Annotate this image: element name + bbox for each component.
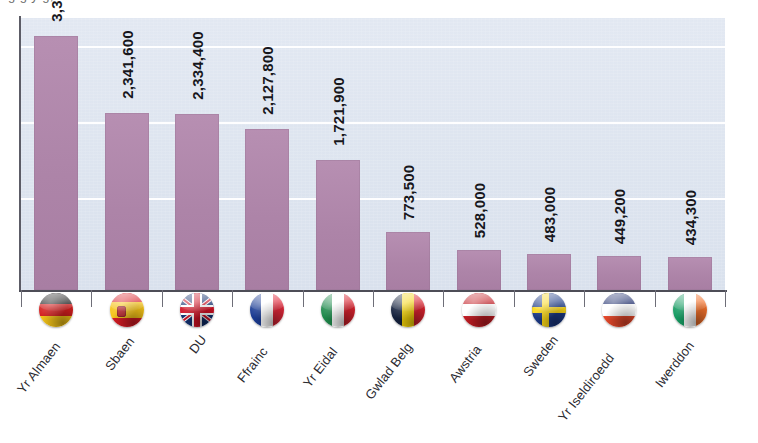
- germany-flag-icon: [39, 293, 73, 327]
- bar-slot: 528,000: [443, 18, 513, 290]
- flag-row: [21, 293, 725, 333]
- bar-slot: 434,300: [655, 18, 725, 290]
- category-label: Yr Eidal: [300, 345, 340, 391]
- bar-value-label: 2,334,400: [188, 31, 205, 100]
- bar-slot: 773,500: [373, 18, 443, 290]
- bar-value-label: 2,341,600: [118, 30, 135, 99]
- bar-yr-almaen[interactable]: [34, 36, 78, 290]
- belgium-flag-icon: [391, 293, 425, 327]
- bar-du[interactable]: [175, 114, 219, 290]
- bar-value-label: 773,500: [400, 165, 417, 221]
- bar-value-label: 2,127,800: [259, 46, 276, 115]
- category-label: Sweden: [520, 333, 561, 380]
- x-tick: [725, 290, 726, 307]
- netherlands-flag-icon: [602, 293, 636, 327]
- austria-flag-icon: [462, 293, 496, 327]
- bar-slot: 483,000: [514, 18, 584, 290]
- italy-flag-icon: [321, 293, 355, 327]
- sweden-flag-icon: [532, 293, 566, 327]
- bar-slot: 2,341,600: [91, 18, 161, 290]
- category-label-row: Yr AlmaenSbaenDUFfraincYr EidalGwlad Bel…: [21, 334, 725, 439]
- bar-sbaen[interactable]: [105, 113, 149, 290]
- category-label: Ffrainc: [234, 344, 271, 385]
- category-label: DU: [186, 332, 210, 356]
- bar-slot: 2,127,800: [232, 18, 302, 290]
- category-label: Yr Almaen: [14, 339, 63, 396]
- chart-page: g g y g, 3,362,6002,341,6002,334,4002,12…: [0, 0, 758, 443]
- category-label: Awstria: [446, 342, 484, 385]
- bar-iwerddon[interactable]: [668, 257, 712, 290]
- bar-sweden[interactable]: [527, 254, 571, 290]
- bar-value-label: 483,000: [540, 187, 557, 243]
- bar-value-label: 3,362,600: [48, 0, 65, 21]
- category-label: Yr Iseldiroedd: [555, 351, 617, 425]
- category-label: Iwerddon: [652, 339, 697, 391]
- spain-flag-icon: [110, 293, 144, 327]
- bar-value-label: 434,300: [681, 190, 698, 246]
- bar-slot: 3,362,600: [21, 18, 91, 290]
- france-flag-icon: [250, 293, 284, 327]
- category-label: Sbaen: [102, 334, 137, 373]
- ireland-flag-icon: [673, 293, 707, 327]
- bar-slot: 1,721,900: [303, 18, 373, 290]
- bar-slot: 2,334,400: [162, 18, 232, 290]
- united-kingdom-flag-icon: [180, 293, 214, 327]
- bar-awstria[interactable]: [457, 250, 501, 290]
- bar-yr-iseldiroedd[interactable]: [597, 256, 641, 290]
- bar-yr-eidal[interactable]: [316, 160, 360, 290]
- bar-value-label: 1,721,900: [329, 77, 346, 146]
- bar-series: 3,362,6002,341,6002,334,4002,127,8001,72…: [21, 18, 725, 290]
- bar-value-label: 449,200: [611, 189, 628, 245]
- cut-off-title-text: g g y g,: [8, 0, 748, 4]
- bar-gwlad-belg[interactable]: [386, 232, 430, 290]
- bar-value-label: 528,000: [470, 183, 487, 239]
- bar-slot: 449,200: [584, 18, 654, 290]
- category-label: Gwlad Belg: [362, 340, 415, 402]
- bar-ffrainc[interactable]: [245, 129, 289, 290]
